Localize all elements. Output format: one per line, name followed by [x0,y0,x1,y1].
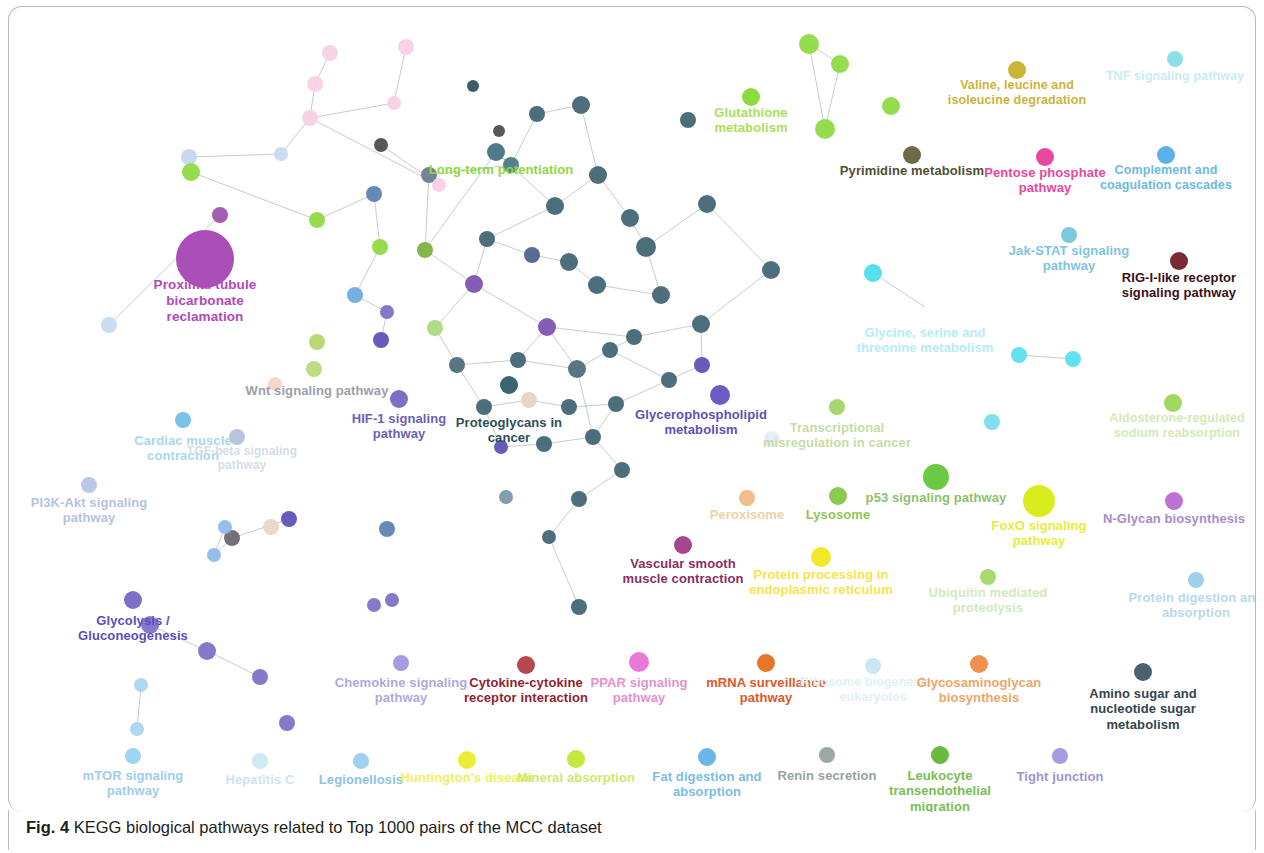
network-node [134,678,148,692]
pathway-node[interactable] [903,146,921,164]
pathway-node[interactable] [1170,252,1188,270]
pathway-node[interactable] [865,658,881,674]
network-node [608,396,624,412]
pathway-label: N-Glycan biosynthesis [1099,511,1249,526]
network-node [417,242,433,258]
pathway-node[interactable] [81,477,97,493]
network-node [524,247,540,263]
pathway-node[interactable] [1036,148,1054,166]
pathway-node[interactable] [970,655,988,673]
network-node [589,166,607,184]
pathway-label: Tight junction [985,769,1135,784]
network-node [347,287,363,303]
pathway-label: Glycolysis / Gluconeogenesis [58,613,208,644]
pathway-node[interactable] [864,264,882,282]
pathway-node[interactable] [1134,663,1152,681]
pathway-label: TNF signaling pathway [1100,69,1250,84]
network-node [101,317,117,333]
pathway-node[interactable] [931,746,949,764]
pathway-node[interactable] [819,747,835,763]
pathway-label: Mineral absorption [501,770,651,785]
pathway-label: Aldosterone-regulated sodium reabsorptio… [1102,411,1252,441]
figure-page: Proximal tubule bicarbonate reclamationG… [0,0,1264,853]
pathway-node[interactable] [393,655,409,671]
pathway-node[interactable] [1023,485,1055,517]
pathway-node[interactable] [567,750,585,768]
network-node [207,548,221,562]
network-node [373,332,389,348]
network-node [521,392,537,408]
pathway-node[interactable] [811,547,831,567]
pathway-node[interactable] [829,487,847,505]
network-node [385,593,399,607]
pathway-label: FoxO signaling pathway [964,518,1114,549]
network-node [636,237,656,257]
network-node [476,399,492,415]
pathway-node[interactable] [829,399,845,415]
pathway-label: Long-term potentiation [426,162,576,177]
network-node [379,521,395,537]
pathway-label: p53 signaling pathway [861,490,1011,505]
network-node [198,642,216,660]
pathway-node[interactable] [710,385,730,405]
pathway-node[interactable] [1164,394,1182,412]
network-node [831,55,849,73]
pathway-label: Complement and coagulation cascades [1091,163,1241,193]
network-node [572,96,590,114]
pathway-node[interactable] [980,569,996,585]
pathway-node[interactable] [923,464,949,490]
pathway-node[interactable] [124,591,142,609]
pathway-node[interactable] [674,536,692,554]
pathway-node[interactable] [698,748,716,766]
network-node [698,195,716,213]
pathway-node[interactable] [1052,748,1068,764]
network-node [571,491,587,507]
pathway-label: Vascular smooth muscle contraction [608,556,758,587]
frame-edge-right [1255,810,1256,850]
network-node [212,207,228,223]
pathway-node[interactable] [1008,61,1026,79]
network-node [306,361,322,377]
network-node [560,253,578,271]
network-node [182,163,200,181]
network-node [374,138,388,152]
pathway-node[interactable] [629,652,649,672]
pathway-node[interactable] [458,751,476,769]
pathway-label: Glycosaminoglycan biosynthesis [904,675,1054,706]
pathway-label: Valine, leucine and isoleucine degradati… [942,78,1092,108]
network-node [546,197,564,215]
network-node [692,315,710,333]
pathway-label: Wnt signaling pathway [242,383,392,398]
pathway-node[interactable] [390,390,408,408]
pathway-node[interactable] [125,748,141,764]
network-node [602,342,618,358]
pathway-label: Proximal tubule bicarbonate reclamation [130,277,280,325]
pathway-node[interactable] [1167,51,1183,67]
pathway-node[interactable] [742,88,760,106]
frame-edge-left [8,810,9,850]
pathway-node[interactable] [487,143,505,161]
network-node [561,399,577,415]
network-node [263,519,279,535]
pathway-node[interactable] [1165,492,1183,510]
pathway-node[interactable] [175,412,191,428]
pathway-node[interactable] [1157,146,1175,164]
network-node [614,462,630,478]
pathway-node[interactable] [517,656,535,674]
network-node [499,490,513,504]
network-node [281,511,297,527]
network-node [479,231,495,247]
pathway-node[interactable] [1061,227,1077,243]
pathway-label: Proteoglycans in cancer [434,415,584,446]
pathway-node[interactable] [757,654,775,672]
pathway-node[interactable] [739,490,755,506]
network-node [366,186,382,202]
figure-frame: Proximal tubule bicarbonate reclamationG… [8,6,1256,812]
pathway-node[interactable] [1188,572,1204,588]
pathway-node[interactable] [252,753,268,769]
figure-caption: Fig. 4 KEGG biological pathways related … [26,818,1226,837]
pathway-node[interactable] [500,376,518,394]
pathway-node[interactable] [309,334,325,350]
network-node [799,34,819,54]
pathway-node[interactable] [353,753,369,769]
